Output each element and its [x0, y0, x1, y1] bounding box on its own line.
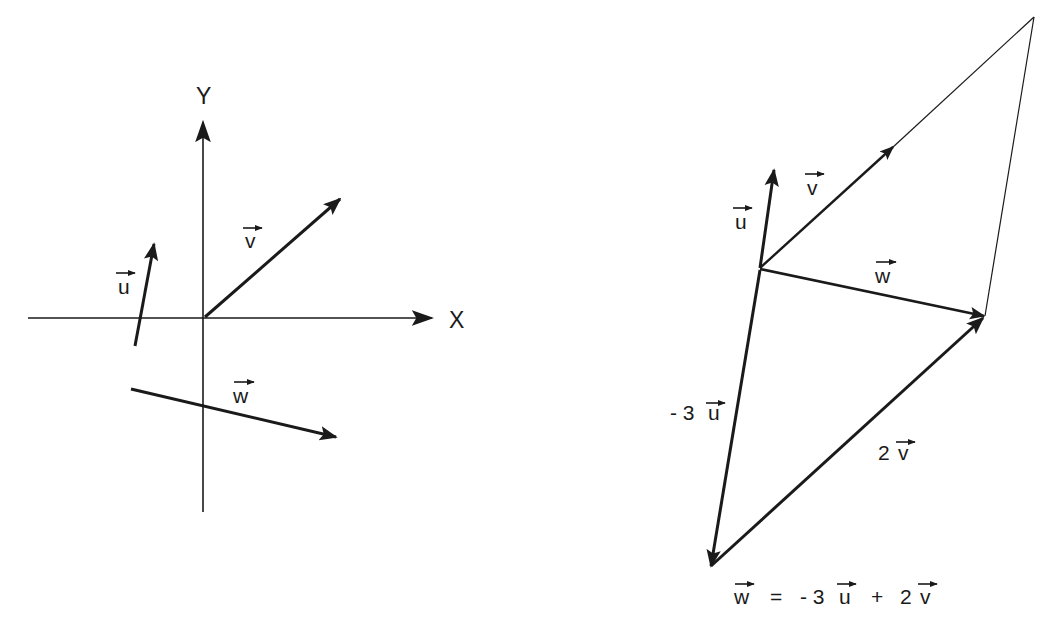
vector-w-label: w: [232, 382, 254, 407]
svg-text:w: w: [232, 384, 249, 407]
2v-label: 2 v: [878, 441, 915, 464]
parallelogram-right-edge: [985, 17, 1034, 316]
equation-term1-vec: u: [839, 585, 851, 608]
vector-2v-arrow: [711, 318, 983, 566]
svg-text:2: 2: [878, 441, 890, 464]
svg-text:u: u: [708, 401, 720, 424]
vector-u-arrow: [135, 244, 154, 346]
svg-text:u: u: [735, 210, 747, 233]
equation: w = - 3 u + 2 v: [733, 584, 937, 608]
right-diagram: u v w - 3 u 2 v w = - 3 u + 2: [670, 17, 1034, 608]
svg-text:u: u: [118, 275, 130, 298]
y-axis-label: Y: [196, 83, 211, 109]
vector-v-arrow: [205, 199, 340, 317]
svg-text:v: v: [898, 441, 909, 464]
vector-w-arrow: [760, 269, 984, 316]
equation-lhs: w: [733, 585, 750, 608]
equation-equals: =: [770, 585, 782, 608]
minus-3u-label: - 3 u: [670, 401, 725, 424]
vector-u-label: u: [733, 208, 752, 233]
vector-u-arrow: [760, 170, 774, 268]
vector-v-label: v: [243, 228, 262, 252]
equation-term1-coef: - 3: [800, 585, 825, 608]
svg-text:- 3: - 3: [670, 401, 695, 424]
equation-plus: +: [871, 585, 883, 608]
parallelogram-top-edge: [892, 17, 1034, 148]
vector-v-label: v: [805, 174, 824, 199]
svg-text:v: v: [807, 176, 818, 199]
vector-w-label: w: [874, 262, 896, 287]
x-axis-label: X: [449, 307, 464, 333]
equation-term2-vec: v: [920, 585, 931, 608]
equation-term2-coef: 2: [900, 585, 912, 608]
vector-figure: X Y u v w u v: [0, 0, 1057, 629]
svg-text:w: w: [874, 264, 891, 287]
vector-u-label: u: [116, 273, 135, 298]
svg-text:v: v: [245, 229, 256, 252]
vector-v-arrow: [760, 147, 893, 268]
left-diagram: X Y u v w: [28, 83, 464, 512]
